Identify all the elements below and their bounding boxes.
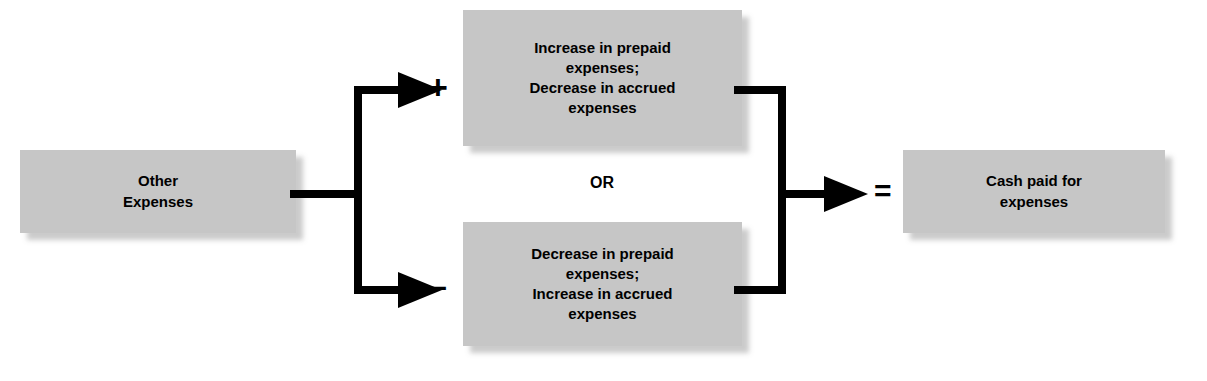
operator-equals: =	[874, 176, 892, 206]
box-other-expenses: Other Expenses	[20, 150, 296, 233]
box-increase-prepaid-expenses-label: Increase in prepaid expenses; Decrease i…	[469, 38, 736, 119]
box-increase-prepaid-expenses: Increase in prepaid expenses; Decrease i…	[463, 10, 742, 146]
connector-merge-stem	[778, 190, 828, 198]
connector-branch-top	[354, 86, 404, 94]
box-decrease-prepaid-expenses: Decrease in prepaid expenses; Increase i…	[463, 222, 742, 346]
operator-minus: –	[428, 268, 447, 302]
connector-source-stem	[290, 190, 362, 198]
connector-branch-bottom	[354, 286, 404, 294]
arrow-right-icon-result	[824, 176, 868, 212]
box-cash-paid-for-expenses-label: Cash paid for expenses	[909, 171, 1159, 212]
flow-diagram: Other Expenses + – Increase in prepaid e…	[0, 0, 1207, 381]
operator-plus: +	[428, 70, 448, 104]
box-other-expenses-label: Other Expenses	[26, 171, 290, 212]
operator-or: OR	[562, 175, 642, 191]
box-cash-paid-for-expenses: Cash paid for expenses	[903, 150, 1165, 233]
connector-split-bar	[354, 86, 362, 294]
box-decrease-prepaid-expenses-label: Decrease in prepaid expenses; Increase i…	[469, 244, 736, 325]
